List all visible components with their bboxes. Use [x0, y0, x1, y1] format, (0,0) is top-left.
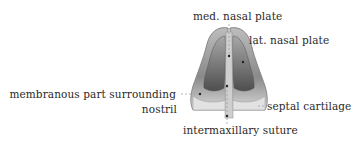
label-membranous-part-line2: nostril — [142, 103, 177, 115]
label-med-nasal-plate: med. nasal plate — [193, 10, 282, 22]
label-intermaxillary-suture: intermaxillary suture — [183, 124, 298, 136]
label-lat-nasal-plate: lat. nasal plate — [249, 34, 329, 46]
label-membranous-part-line1: membranous part surrounding — [9, 88, 176, 100]
left-nasal-plate — [191, 28, 228, 110]
nasal-plates-illustration — [0, 0, 359, 141]
label-septal-cartilage: septal cartilage — [267, 100, 351, 112]
